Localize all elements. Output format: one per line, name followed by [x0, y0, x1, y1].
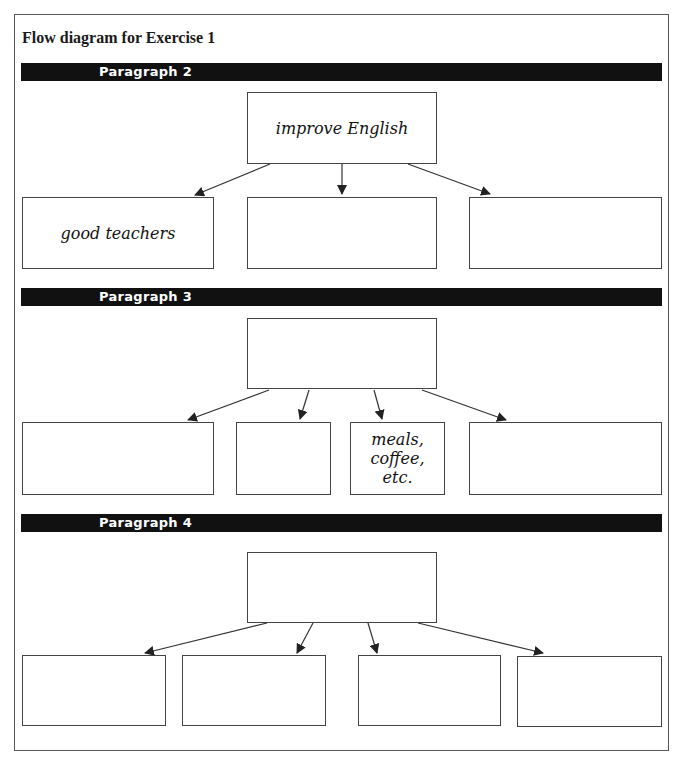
p3-box-3[interactable]: meals, coffee, etc.: [350, 422, 445, 495]
p2-box-2[interactable]: [247, 197, 437, 269]
section-header-paragraph-3: Paragraph 3: [21, 288, 662, 306]
p3-box-4[interactable]: [469, 422, 662, 495]
page-title: Flow diagram for Exercise 1: [22, 29, 215, 47]
section-header-paragraph-2: Paragraph 2: [21, 63, 662, 81]
box-text: improve English: [276, 119, 408, 138]
section-label: Paragraph 3: [99, 288, 192, 306]
p4-top-box[interactable]: [247, 552, 437, 623]
p2-box-1[interactable]: good teachers: [22, 197, 214, 269]
p2-top-box[interactable]: improve English: [247, 92, 437, 164]
p3-box-2[interactable]: [236, 422, 331, 495]
p4-box-3[interactable]: [358, 655, 501, 726]
box-text: good teachers: [61, 224, 176, 243]
p3-box-1[interactable]: [22, 422, 214, 495]
box-text: meals, coffee, etc.: [357, 430, 438, 487]
section-label: Paragraph 4: [99, 514, 192, 532]
p3-top-box[interactable]: [247, 318, 437, 389]
p4-box-2[interactable]: [182, 655, 326, 726]
section-label: Paragraph 2: [99, 63, 192, 81]
p4-box-1[interactable]: [22, 655, 166, 726]
p4-box-4[interactable]: [517, 656, 662, 727]
section-header-paragraph-4: Paragraph 4: [21, 514, 662, 532]
p2-box-3[interactable]: [469, 197, 662, 269]
